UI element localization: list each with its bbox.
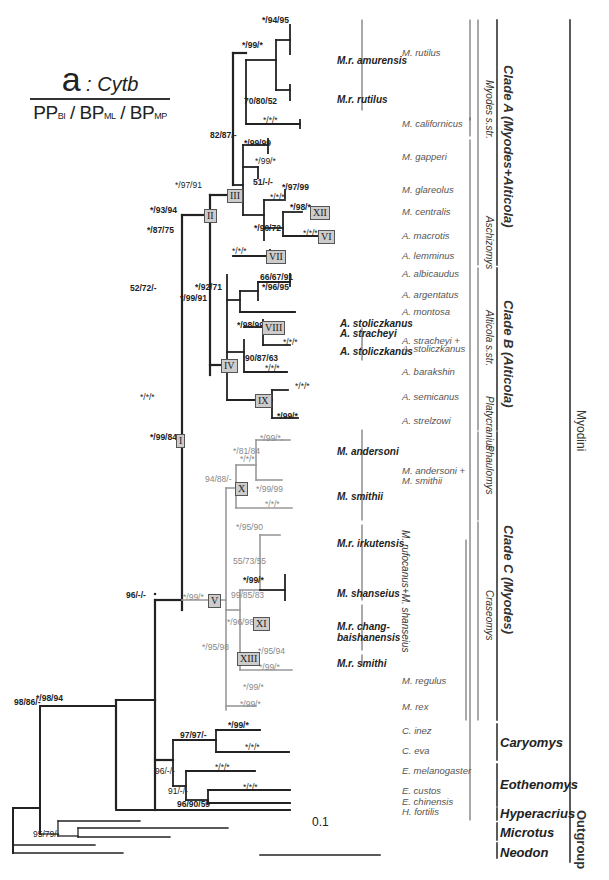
- species-label: M. gapperi: [402, 151, 447, 162]
- taxon-a-stracheyi: A. stracheyi: [340, 328, 397, 339]
- species-label: C. eva: [402, 745, 429, 756]
- subgenus-myodes-ss: Myodes s.str.: [484, 80, 495, 139]
- node-marker-X: X: [235, 482, 248, 496]
- support-51: 51/-/-: [253, 177, 273, 187]
- support-rutilus-ss: 70/80/52: [244, 96, 277, 106]
- support-smithii2: */*/*: [265, 499, 280, 509]
- taxon-mr-irkutensis: M.r. irkutensis: [337, 538, 404, 549]
- support-rex: */99/*: [240, 699, 261, 709]
- scale-bar-label: 0.1: [312, 815, 329, 829]
- support-semicanus: */*/*: [295, 381, 310, 391]
- support-node-II: */93/94: [150, 205, 177, 215]
- support-node-XI: */96/98: [227, 617, 254, 627]
- support-stol-sub: */*/*: [283, 337, 298, 347]
- species-label: A. montosa: [402, 306, 450, 317]
- support-microtus: 95/79/-: [33, 829, 59, 839]
- support-format: PPBI / BPML / BPMP: [30, 102, 170, 124]
- support-node-III: */97/91: [175, 180, 202, 190]
- support-55: 55/73/55: [233, 556, 266, 566]
- species-label: E. custos: [402, 785, 441, 796]
- rufocanus-label: M. rufocanus+M. shanseius: [400, 530, 411, 653]
- support-macrotis: */*/*: [303, 228, 318, 238]
- node-marker-III: III: [227, 189, 243, 203]
- species-label: A. albicaudus: [402, 268, 459, 279]
- support-chang: */95/94: [258, 646, 285, 656]
- taxon-m-shanseius: M. shanseius: [337, 588, 400, 599]
- species-label: A. barakshin: [402, 366, 455, 377]
- support-anders-81: */81/84: [233, 446, 260, 456]
- node-marker-I: I: [176, 434, 185, 448]
- support-gapperi: */99/99: [244, 138, 271, 148]
- subgenus-craseomys: Craseomys: [484, 590, 495, 641]
- species-label: M. rex: [402, 701, 428, 712]
- species-label: M. californicus: [402, 118, 463, 129]
- taxon-mr-smithi: M.r. smithi: [337, 658, 386, 669]
- support-arg-sub: */96/95: [262, 282, 289, 292]
- support-glar-cent: */*/*: [270, 192, 285, 202]
- support-centralis: */98/*: [290, 202, 311, 212]
- support-shanseius: */99/*: [243, 575, 264, 585]
- node-marker-II: II: [204, 209, 217, 223]
- species-label: H. fortilis: [402, 806, 439, 817]
- species-label: M. glareolus: [402, 184, 454, 195]
- species-label: C. inez: [402, 725, 432, 736]
- clade-a-label: Clade A (Myodes+Alticola): [501, 65, 516, 228]
- support-node-V: */99/*: [183, 592, 204, 602]
- genus-microtus: Microtus: [500, 825, 554, 840]
- species-label: M. regulus: [402, 675, 446, 686]
- taxon-m-smithii: M. smithii: [337, 491, 383, 502]
- support-node-VIII: */98/99: [237, 320, 264, 330]
- subgenus-phaulomys: Phaulomys: [484, 445, 495, 494]
- node-marker-XII: XII: [310, 206, 330, 220]
- subgenus-alticola-ss: Alticola s.str.: [484, 310, 495, 366]
- support-90-87: 90/87/63: [245, 353, 278, 363]
- subgenus-platycranius: Platycranius: [484, 396, 495, 450]
- support-92-71: */92/71: [195, 282, 222, 292]
- gene-name: Cytb: [97, 73, 138, 95]
- support-rutilus: */99/*: [242, 40, 263, 50]
- support-c-eva: */*/*: [245, 742, 260, 752]
- support-96: 96/-/-: [126, 590, 146, 600]
- species-label: A. strelzowi: [402, 415, 451, 426]
- panel-letter: a: [62, 60, 81, 98]
- support-node-I: */99/84: [150, 432, 177, 442]
- support-alti-ss: */99/91: [180, 293, 207, 303]
- taxon-mr-amurensis: M.r. amurensis: [337, 55, 407, 66]
- support-96-eoth: 96/-/-: [155, 766, 175, 776]
- genus-eothenomys: Eothenomys: [500, 777, 578, 792]
- node-marker-XIII: XIII: [237, 652, 260, 666]
- support-caryomys: 97/97/-: [180, 730, 206, 740]
- subgenus-aschizomys: Aschizomys: [484, 216, 495, 269]
- support-regulus: */99/*: [243, 682, 264, 692]
- taxon-mr-rutilus: M.r. rutilus: [337, 94, 388, 105]
- support-gapperi-sub: */99/*: [255, 156, 276, 166]
- node-marker-VIII: VIII: [262, 321, 285, 335]
- tribe-myodini: Myodini: [574, 410, 588, 451]
- support-barakshin: */*/*: [265, 363, 280, 373]
- species-label: A. lemminus: [402, 250, 454, 261]
- support-91: 91/-/-: [168, 786, 188, 796]
- support-90-72: */90/72: [254, 223, 281, 233]
- species-label: A. macrotis: [402, 230, 450, 241]
- support-96-90: 96/90/59: [177, 799, 210, 809]
- node-marker-VII: VII: [266, 250, 286, 264]
- genus-caryomys: Caryomys: [500, 735, 563, 750]
- support-myodini: */98/94: [36, 693, 63, 703]
- clade-c-label: Clade C (Myodes): [501, 525, 516, 634]
- species-label: A. argentatus: [402, 289, 459, 300]
- node-marker-XI: XI: [253, 617, 270, 631]
- species-label: A. stoliczkanus: [402, 343, 465, 354]
- support-californicus: */*/*: [263, 115, 278, 125]
- clade-b-label: Clade B (Alticola): [501, 300, 516, 408]
- support-52: 52/72/-: [130, 283, 156, 293]
- support-lemminus: */*/*: [232, 246, 247, 256]
- node-marker-IX: IX: [255, 394, 272, 408]
- support-e-custos: */*/*: [243, 782, 258, 792]
- node-marker-V: V: [208, 594, 221, 608]
- support-anders-sub: */99/*: [260, 433, 281, 443]
- species-label: M. centralis: [402, 206, 451, 217]
- support-legend: a : Cytb PPBI / BPML / BPMP: [30, 62, 170, 124]
- support-smithi: */99/*: [259, 662, 280, 672]
- support-c-inez: */99/*: [228, 720, 249, 730]
- species-label: M. rutilus: [402, 47, 441, 58]
